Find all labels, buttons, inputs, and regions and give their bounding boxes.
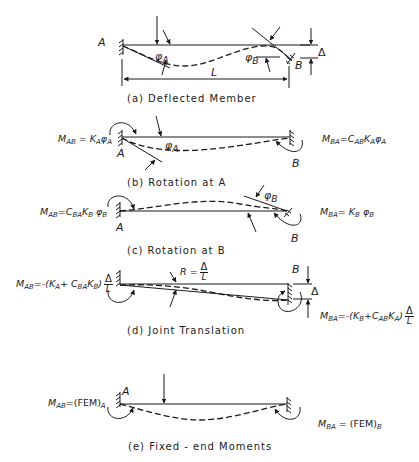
equation-mba-e: MBA = (FEM)B bbox=[318, 419, 382, 431]
deflected-curve bbox=[122, 138, 290, 151]
label-length: L bbox=[211, 67, 217, 78]
moment-arrow-b-icon bbox=[276, 140, 302, 152]
subscript: A bbox=[107, 138, 112, 146]
equation-mab-c: MAB=CBAKB φB bbox=[40, 207, 107, 219]
deflected-curve bbox=[120, 404, 287, 420]
subscript: A bbox=[162, 54, 168, 65]
plus: + bbox=[60, 278, 68, 289]
fixed-support-a-icon bbox=[116, 270, 120, 286]
m: M bbox=[48, 397, 56, 408]
label-delta: Δ bbox=[311, 286, 319, 297]
equation-mba-d: MBA=-(KB+CABKA)ΔL bbox=[320, 306, 414, 326]
subscript: B bbox=[252, 55, 258, 66]
panel-e bbox=[108, 374, 300, 420]
fem: (FEM) bbox=[74, 397, 101, 408]
fem: (FEM) bbox=[350, 418, 377, 429]
subscript: AB bbox=[66, 138, 76, 146]
label-phi-a: φA bbox=[155, 51, 169, 64]
label-end-b: B bbox=[292, 264, 300, 275]
c: C bbox=[372, 310, 379, 321]
fixed-support-b-icon bbox=[290, 130, 294, 146]
equals: = bbox=[79, 133, 87, 144]
denominator: L bbox=[104, 285, 113, 294]
label-phi-a: φA bbox=[165, 140, 179, 153]
m: M bbox=[320, 310, 328, 321]
fixed-support-b-icon bbox=[284, 208, 292, 217]
moment-arrow-a-icon bbox=[108, 196, 134, 209]
equals: = bbox=[58, 206, 66, 217]
fixed-support-b-icon bbox=[286, 53, 295, 64]
subscript: BA bbox=[326, 423, 336, 431]
label-end-a: A bbox=[117, 148, 125, 159]
moment-arrow-b-icon bbox=[275, 407, 300, 419]
fixed-support-b-icon bbox=[287, 397, 291, 413]
subscript: B bbox=[271, 193, 277, 204]
minus-paren: -( bbox=[42, 278, 49, 289]
fixed-support-a-icon bbox=[116, 202, 120, 218]
subscript: AB bbox=[56, 402, 66, 410]
m: M bbox=[320, 206, 328, 217]
label-end-b: B bbox=[292, 158, 300, 169]
caption-a: (a) Deflected Member bbox=[127, 94, 257, 104]
subscript: BA bbox=[72, 211, 82, 219]
label-end-a: A bbox=[122, 386, 130, 397]
fraction-delta-over-l: ΔL bbox=[104, 274, 113, 294]
subscript: BA bbox=[78, 283, 88, 291]
deflected-curve bbox=[123, 46, 290, 66]
equals: = bbox=[340, 133, 348, 144]
equals: = bbox=[34, 278, 42, 289]
subscript: B bbox=[102, 211, 107, 219]
slope-deflection-diagram bbox=[0, 0, 419, 462]
close-paren: ) bbox=[98, 278, 102, 289]
panel-d bbox=[108, 266, 312, 318]
label-end-a: A bbox=[98, 37, 106, 48]
r: R bbox=[180, 266, 187, 277]
equals: = bbox=[339, 418, 347, 429]
fixed-support-a-icon bbox=[118, 130, 122, 146]
fixed-support-a-icon bbox=[116, 392, 120, 408]
rotated-chord bbox=[120, 285, 288, 300]
denominator: L bbox=[405, 317, 414, 326]
label-rotation-r: R =ΔL bbox=[180, 262, 208, 282]
moment-arrow-a-icon bbox=[108, 407, 133, 418]
equation-mab-e: MAB=(FEM)A bbox=[48, 398, 106, 410]
caption-c: (c) Rotation at B bbox=[127, 246, 226, 256]
subscript: A bbox=[381, 138, 386, 146]
panel-a bbox=[119, 16, 318, 88]
subscript: AB bbox=[24, 283, 34, 291]
fixed-support-b-icon bbox=[288, 283, 292, 305]
subscript: B bbox=[355, 211, 360, 219]
label-end-b: B bbox=[295, 60, 303, 71]
equation-mba-c: MBA= KB φB bbox=[320, 207, 374, 219]
close-paren: ) bbox=[399, 310, 403, 321]
fraction-delta-over-l: ΔL bbox=[405, 306, 414, 326]
subscript: BA bbox=[328, 315, 338, 323]
plus: + bbox=[364, 310, 372, 321]
label-end-a: A bbox=[116, 222, 124, 233]
label-delta: Δ bbox=[318, 47, 326, 58]
subscript: A bbox=[172, 143, 178, 154]
m: M bbox=[16, 278, 24, 289]
subscript: AB bbox=[48, 211, 58, 219]
c: C bbox=[71, 278, 78, 289]
label-end-b: B bbox=[291, 233, 299, 244]
equals: = bbox=[190, 266, 198, 277]
moment-arrow-a-icon bbox=[110, 123, 136, 135]
equals: = bbox=[66, 397, 74, 408]
subscript: B bbox=[369, 211, 374, 219]
subscript: A bbox=[101, 402, 106, 410]
panel-b bbox=[110, 116, 303, 170]
caption-d: (d) Joint Translation bbox=[127, 326, 245, 336]
denominator: L bbox=[200, 273, 209, 282]
caption-b: (b) Rotation at A bbox=[127, 178, 226, 188]
fixed-support-a-icon bbox=[119, 39, 123, 55]
equals: = bbox=[338, 206, 346, 217]
equation-mab-d: MAB=-(KA+ CBAKB)ΔL bbox=[16, 274, 113, 294]
m: M bbox=[318, 418, 326, 429]
m: M bbox=[322, 133, 330, 144]
subscript: B bbox=[88, 211, 93, 219]
minus-paren: -( bbox=[346, 310, 353, 321]
equation-mba-b: MBA=CABKAφA bbox=[322, 134, 386, 146]
tangent-a bbox=[122, 138, 162, 162]
caption-e: (e) Fixed - end Moments bbox=[128, 442, 272, 452]
